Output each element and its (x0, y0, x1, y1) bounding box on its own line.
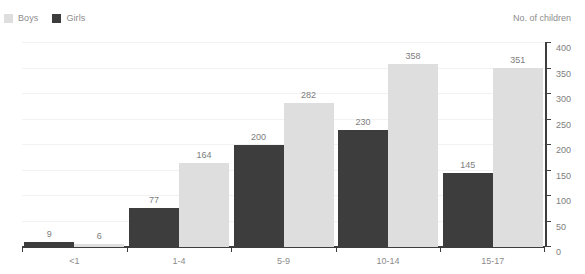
x-axis-tick (440, 247, 441, 252)
legend-item-boys: Boys (4, 13, 38, 23)
bar-boys-1-4[interactable]: 164 (179, 163, 229, 247)
legend-item-girls: Girls (52, 13, 85, 23)
y-axis-tick (545, 170, 551, 171)
bar-value-label: 9 (47, 229, 52, 239)
x-axis-label-15-17: 15-17 (481, 256, 504, 266)
bar-group: 96 (24, 43, 124, 247)
x-axis-tick (336, 247, 337, 252)
bar-group: 145351 (443, 43, 543, 247)
legend-label-girls: Girls (66, 13, 85, 23)
bar-value-label: 164 (196, 150, 211, 160)
x-axis-line (22, 247, 545, 248)
x-axis-tick (231, 247, 232, 252)
legend-label-boys: Boys (18, 13, 38, 23)
bar-group: 77164 (129, 43, 229, 247)
bar-value-label: 77 (149, 195, 159, 205)
bar-group: 200282 (234, 43, 334, 247)
bar-girls-1-4[interactable]: 77 (129, 208, 179, 247)
bar-value-label: 200 (251, 132, 266, 142)
bar-boys-10-14[interactable]: 358 (388, 64, 438, 247)
plot-area: 9677164200282230358145351 (22, 43, 545, 247)
bar-groups: 9677164200282230358145351 (22, 43, 545, 247)
legend-swatch-girls (52, 14, 61, 23)
y-axis-tick (545, 144, 551, 145)
x-axis-label-5-9: 5-9 (277, 256, 290, 266)
y-axis: 050100150200250300350400 (545, 43, 585, 247)
bar-chart: Boys Girls No. of children 9677164200282… (0, 0, 585, 274)
x-axis-label-1-4: 1-4 (172, 256, 185, 266)
bar-group: 230358 (338, 43, 438, 247)
bar-value-label: 351 (510, 55, 525, 65)
y-axis-tick (545, 93, 551, 94)
y-axis-tick (545, 68, 551, 69)
y-axis-line (545, 43, 547, 247)
bar-value-label: 282 (301, 90, 316, 100)
y-axis-tick (545, 42, 551, 43)
bar-value-label: 145 (460, 160, 475, 170)
bar-girls-15-17[interactable]: 145 (443, 173, 493, 247)
x-axis-tick (22, 247, 23, 252)
bar-value-label: 358 (406, 51, 421, 61)
y-axis-tick (545, 195, 551, 196)
bar-girls-5-9[interactable]: 200 (234, 145, 284, 247)
chart-legend: Boys Girls (4, 13, 85, 23)
bar-value-label: 6 (97, 231, 102, 241)
y-axis-tick (545, 221, 551, 222)
bar-boys-5-9[interactable]: 282 (284, 103, 334, 247)
x-axis-label-10-14: 10-14 (377, 256, 400, 266)
x-axis-label-<1: <1 (69, 256, 79, 266)
bar-boys-15-17[interactable]: 351 (493, 68, 543, 247)
bar-girls-10-14[interactable]: 230 (338, 130, 388, 247)
y-axis-tick (545, 246, 551, 247)
y-axis-tick (545, 119, 551, 120)
x-axis-tick (544, 247, 545, 252)
x-axis-tick (127, 247, 128, 252)
bar-value-label: 230 (356, 117, 371, 127)
legend-swatch-boys (4, 14, 13, 23)
y-axis-title: No. of children (513, 13, 571, 23)
x-axis: <11-45-910-1415-17 (22, 247, 545, 274)
